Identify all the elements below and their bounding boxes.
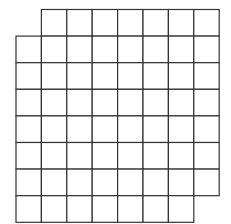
grid-cell: [41, 116, 66, 143]
grid-cell: [118, 196, 143, 223]
grid-cell: [92, 36, 117, 63]
grid-cell: [67, 143, 92, 170]
grid-cell: [118, 36, 143, 63]
grid-cell: [16, 89, 41, 116]
grid-cell: [67, 169, 92, 196]
grid-cell: [194, 169, 219, 196]
grid-cell: [143, 63, 168, 90]
grid-cell: [16, 36, 41, 63]
grid-cell: [118, 169, 143, 196]
grid-cell: [168, 63, 193, 90]
grid-cell: [41, 10, 66, 37]
grid-cell: [92, 89, 117, 116]
grid-cell: [194, 10, 219, 37]
grid-cell: [194, 36, 219, 63]
grid-cell: [67, 36, 92, 63]
grid-cell: [67, 10, 92, 37]
grid-cell: [143, 196, 168, 223]
grid-cell: [92, 116, 117, 143]
grid-cell: [143, 10, 168, 37]
grid-cell: [143, 116, 168, 143]
grid-cell: [67, 116, 92, 143]
grid-cell: [67, 196, 92, 223]
grid-cell: [41, 36, 66, 63]
grid-cell: [16, 116, 41, 143]
grid-cell: [16, 196, 41, 223]
grid-cell: [194, 63, 219, 90]
grid-cell: [16, 143, 41, 170]
grid-cell: [92, 10, 117, 37]
grid-cell: [41, 63, 66, 90]
grid-cell: [16, 63, 41, 90]
grid-cell: [92, 143, 117, 170]
grid-cell: [168, 10, 193, 37]
grid-cell: [41, 169, 66, 196]
grid-cell: [41, 143, 66, 170]
grid-diagram: [0, 0, 231, 224]
grid-cell: [143, 143, 168, 170]
grid-cell: [168, 116, 193, 143]
grid-cell: [118, 143, 143, 170]
grid-cell: [92, 63, 117, 90]
grid-cell: [92, 169, 117, 196]
grid-cell: [168, 143, 193, 170]
grid-cell: [92, 196, 117, 223]
grid-cell: [168, 169, 193, 196]
grid-cell: [118, 10, 143, 37]
grid-cell: [16, 169, 41, 196]
grid-cell: [118, 63, 143, 90]
grid-cell: [143, 89, 168, 116]
grid-cell: [143, 169, 168, 196]
grid-cell: [118, 116, 143, 143]
grid-cell: [194, 89, 219, 116]
grid-cell: [67, 89, 92, 116]
grid-cell: [168, 89, 193, 116]
grid-cell: [41, 196, 66, 223]
grid-cell: [168, 196, 193, 223]
grid-cell: [194, 116, 219, 143]
grid-cell: [41, 89, 66, 116]
grid-cell: [143, 36, 168, 63]
grid-cell: [118, 89, 143, 116]
grid-cell: [194, 143, 219, 170]
grid-cell: [67, 63, 92, 90]
grid-cell: [168, 36, 193, 63]
